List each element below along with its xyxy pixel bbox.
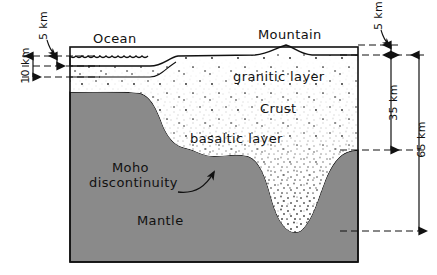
label-moho-line2: discontinuity [89,175,178,190]
label-ocean: Ocean [93,31,137,46]
label-left-10km: 10 km [19,45,32,87]
geology-cross-section-figure: Ocean Mountain granitic layer Crust basa… [0,0,437,275]
ocean-water [70,56,148,66]
label-moho-line1: Moho [112,160,149,175]
label-right-65km: 65 km [415,117,428,163]
label-mountain: Mountain [258,27,322,42]
label-basaltic-layer: basaltic layer [190,131,283,146]
label-right-35km: 35 km [387,80,400,126]
label-granitic-layer: granitic layer [233,69,325,84]
label-mantle: Mantle [137,213,184,228]
label-crust: Crust [260,101,297,116]
label-right-5km: 5 km [372,0,385,37]
label-left-5km: 5 km [37,5,50,47]
